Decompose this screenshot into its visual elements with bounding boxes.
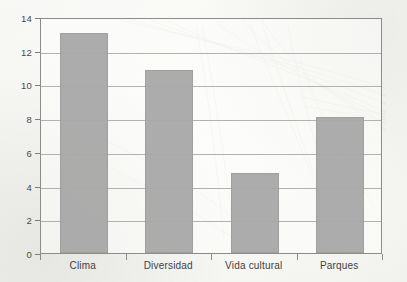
- y-axis-tick-mark: [35, 85, 40, 86]
- y-axis-tick-label: 2: [4, 215, 32, 226]
- y-axis-tick-mark: [35, 119, 40, 120]
- x-axis-tick-label: Vida cultural: [225, 260, 282, 271]
- x-axis-tick-mark: [126, 254, 127, 260]
- x-axis-tick-label: Parques: [320, 260, 359, 271]
- bar-vida-cultural: [231, 173, 279, 253]
- y-axis-tick-label: 8: [4, 114, 32, 125]
- x-axis-tick-mark: [40, 254, 41, 260]
- y-axis-tick-label: 4: [4, 181, 32, 192]
- y-axis-tick-label: 10: [4, 80, 32, 91]
- y-axis-tick-mark: [35, 220, 40, 221]
- x-axis-tick-label: Clima: [69, 260, 96, 271]
- x-axis-tick-mark: [382, 254, 383, 260]
- y-axis-tick-mark: [35, 18, 40, 19]
- y-axis-tick-label: 12: [4, 46, 32, 57]
- x-axis-tick-mark: [211, 254, 212, 260]
- bar-parques: [316, 117, 364, 253]
- bar-diversidad: [145, 70, 193, 253]
- y-axis-tick-mark: [35, 52, 40, 53]
- x-axis-tick-mark: [297, 254, 298, 260]
- y-axis-tick-label: 14: [4, 13, 32, 24]
- plot-area: [40, 18, 382, 254]
- y-axis-tick-label: 0: [4, 249, 32, 260]
- x-axis-tick-label: Diversidad: [144, 260, 193, 271]
- chart-page: 02468101214ClimaDiversidadVida culturalP…: [0, 0, 407, 282]
- y-axis-tick-mark: [35, 153, 40, 154]
- y-axis-tick-label: 6: [4, 147, 32, 158]
- bar-clima: [60, 33, 108, 253]
- y-axis-tick-mark: [35, 187, 40, 188]
